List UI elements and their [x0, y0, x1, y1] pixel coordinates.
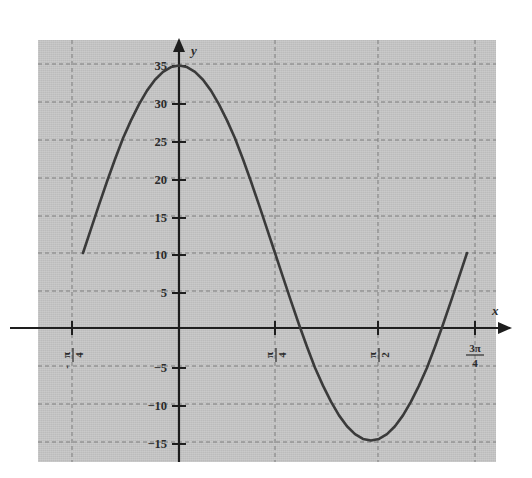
- x-tick-numerator-2: π: [366, 352, 378, 358]
- x-tick-denominator-3: 4: [472, 357, 478, 369]
- x-tick-denominator-0: 4: [73, 352, 85, 358]
- x-tick-label-pi-over-2: π 2: [366, 348, 391, 362]
- y-axis-label: y: [189, 43, 197, 58]
- x-axis: [10, 322, 512, 334]
- grid-lines-horizontal: [38, 64, 496, 442]
- x-tick-denominator-1: 4: [276, 352, 288, 358]
- y-tick-label-5: 5: [161, 286, 167, 300]
- chart-svg: 35 30 25 20 15 10 5 −5 −10 −15 π 4 - π 4…: [0, 0, 532, 478]
- x-tick-label-3pi-over-4: 3π 4: [466, 342, 484, 369]
- x-axis-label: x: [491, 303, 499, 318]
- figure-container: 35 30 25 20 15 10 5 −5 −10 −15 π 4 - π 4…: [0, 0, 532, 478]
- y-tick-label-20: 20: [155, 173, 168, 187]
- y-tick-label-10: 10: [155, 248, 168, 262]
- y-tick-label-30: 30: [155, 97, 168, 111]
- y-tick-label-15: 15: [155, 211, 168, 225]
- x-tick-numerator-1: π: [263, 352, 275, 358]
- x-tick-label-pi-over-4: π 4: [263, 348, 288, 362]
- x-tick-sign-0: -: [60, 365, 72, 369]
- x-tick-numerator-0: π: [60, 352, 72, 358]
- y-tick-label-neg15: −15: [147, 437, 167, 451]
- y-tick-label-25: 25: [155, 135, 168, 149]
- x-tick-numerator-3: 3π: [469, 342, 481, 354]
- y-tick-labels: 35 30 25 20 15 10 5 −5 −10 −15: [147, 59, 167, 451]
- y-tick-label-neg5: −5: [154, 361, 167, 375]
- x-tick-denominator-2: 2: [379, 352, 391, 358]
- y-tick-label-neg10: −10: [147, 399, 167, 413]
